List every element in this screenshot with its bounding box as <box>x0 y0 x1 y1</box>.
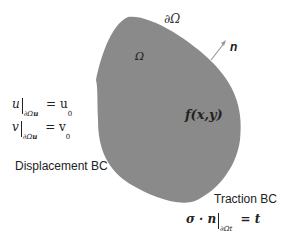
displacement-bc-title: Displacement BC <box>15 159 108 173</box>
displacement-eq-v: v∂Ωu = v0 <box>12 120 70 141</box>
traction-eq: σ · n∂Ωt = t <box>186 212 260 233</box>
displacement-eq-u: u∂Ωu = u0 <box>12 97 72 118</box>
body-force-label: f(x,y) <box>185 107 223 122</box>
traction-bc-title: Traction BC <box>214 192 277 206</box>
diagram-canvas: ∂Ω n Ω f(x,y) u∂Ωu = u0 v∂Ωu = v0 Displa… <box>0 0 286 248</box>
domain-label: Ω <box>135 50 144 63</box>
boundary-label: ∂Ω <box>164 12 180 26</box>
normal-arrowhead-icon <box>221 40 226 46</box>
normal-label: n <box>230 40 237 54</box>
